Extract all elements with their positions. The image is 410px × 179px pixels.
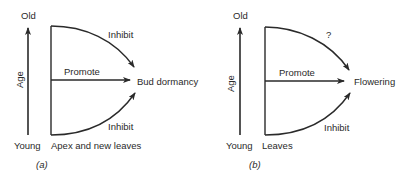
source-label: Apex and new leaves bbox=[51, 140, 142, 151]
axis-bottom-label: Young bbox=[14, 140, 41, 151]
panel-caption: (b) bbox=[249, 159, 261, 170]
middle-arrow-label: Promote bbox=[279, 67, 315, 78]
axis-label: Age bbox=[14, 71, 25, 88]
diagram-canvas: Old Age Young Inhibit Promote Inhibit Bu… bbox=[0, 0, 410, 179]
diagram: Old Age Young Inhibit Promote Inhibit Bu… bbox=[0, 0, 410, 179]
panel-caption: (a) bbox=[36, 159, 48, 170]
bottom-arrow-label: Inhibit bbox=[108, 121, 134, 132]
panel-a: Old Age Young Inhibit Promote Inhibit Bu… bbox=[14, 10, 199, 170]
axis-top-label: Old bbox=[21, 10, 36, 21]
middle-arrow-label: Promote bbox=[64, 66, 100, 77]
target-label: Flowering bbox=[354, 76, 395, 87]
source-label: Leaves bbox=[262, 140, 293, 151]
axis-label: Age bbox=[225, 75, 236, 92]
top-arrow-label: ? bbox=[326, 29, 331, 40]
panel-b: Old Age Young ? Promote Inhibit Flowerin… bbox=[225, 10, 395, 170]
target-label: Bud dormancy bbox=[137, 76, 199, 87]
top-arrow bbox=[265, 27, 349, 70]
axis-top-label: Old bbox=[233, 10, 248, 21]
top-arrow-label: Inhibit bbox=[108, 29, 134, 40]
bottom-arrow-label: Inhibit bbox=[324, 122, 350, 133]
axis-bottom-label: Young bbox=[226, 140, 253, 151]
